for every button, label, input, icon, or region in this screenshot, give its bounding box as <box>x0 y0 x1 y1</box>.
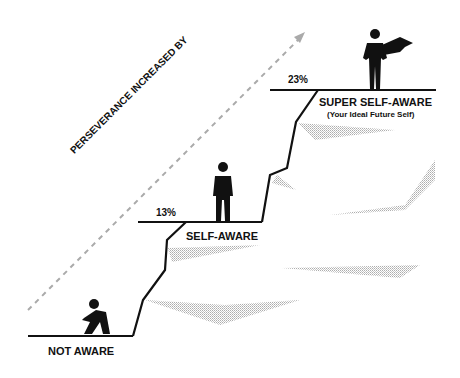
step-label-not-aware: NOT AWARE <box>48 345 114 357</box>
arrow-head-icon <box>294 32 305 43</box>
superhero-icon <box>363 29 413 89</box>
step-percent-self-aware: 13% <box>156 207 176 218</box>
step-label-super-self-aware: SUPER SELF-AWARE <box>319 96 432 108</box>
thinking-person-icon <box>213 162 233 221</box>
staircase-diagram <box>0 0 460 378</box>
sitting-person-icon <box>82 299 110 334</box>
step-label-self-aware: SELF-AWARE <box>186 230 258 242</box>
step-subtitle-super-self-aware: (Your Ideal Future Self) <box>327 110 414 119</box>
step-percent-super-self-aware: 23% <box>288 74 308 85</box>
